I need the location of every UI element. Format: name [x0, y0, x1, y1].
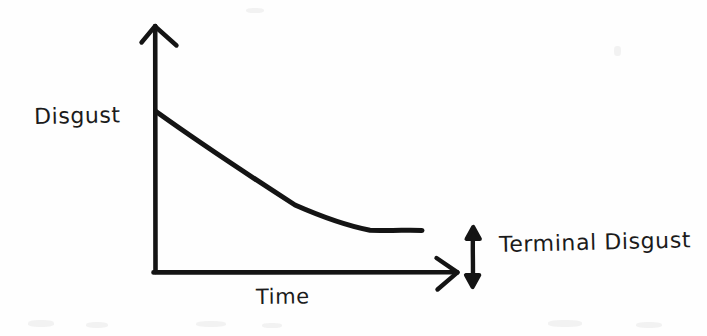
- double-headed-vertical-arrow-icon: [467, 227, 480, 239]
- terminal-disgust-annotation-label: Terminal Disgust: [499, 229, 692, 256]
- y-axis-label: Disgust: [34, 104, 121, 128]
- double-headed-vertical-arrow-icon: [466, 275, 479, 287]
- sketch-page: Disgust Time Terminal Disgust: [0, 0, 707, 336]
- arrow-up-icon: [155, 27, 176, 46]
- chart-drawing: [0, 0, 707, 336]
- disgust-decay-curve: [156, 112, 422, 231]
- arrow-right-icon: [438, 272, 458, 289]
- x-axis-label: Time: [256, 286, 310, 308]
